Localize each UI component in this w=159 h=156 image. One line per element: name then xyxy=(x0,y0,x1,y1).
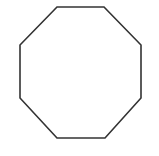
figure-canvas xyxy=(0,0,159,156)
octagon-shape xyxy=(20,7,141,138)
octagon-figure xyxy=(0,0,159,156)
